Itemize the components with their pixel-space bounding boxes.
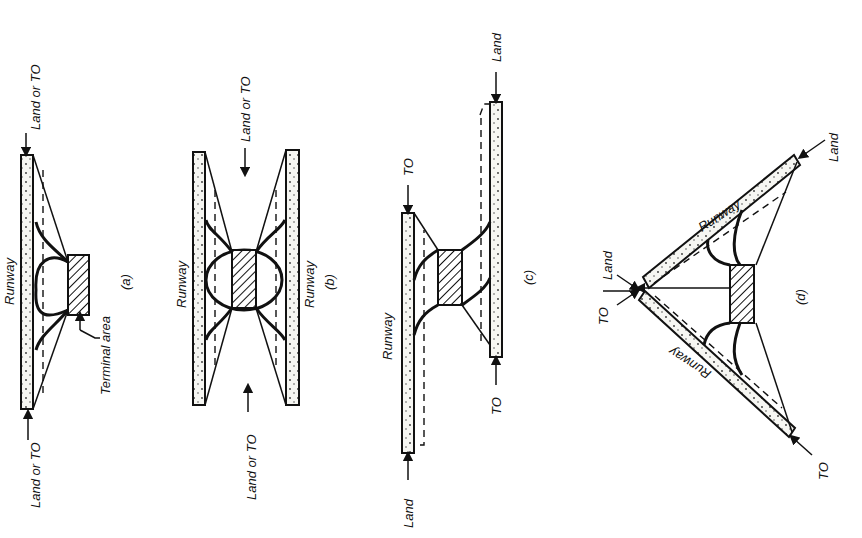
end-label-right-top: Land: [489, 32, 504, 62]
end-label-left-top: TO: [401, 158, 416, 176]
arrow-icon: [793, 438, 812, 455]
taxi-connector: [414, 250, 438, 280]
panel-c: TO Land Land TO Runway (c): [380, 32, 536, 528]
end-label-upper: Land: [826, 132, 841, 162]
airport-runway-configurations-figure: Land or TO Land or TO Runway Terminal ar…: [0, 0, 862, 538]
caption-d: (d): [793, 289, 808, 305]
taxiway-line: [256, 308, 286, 405]
taxi-loop: [734, 323, 742, 375]
panel-d: Land Land TO TO Runway Runway (d): [596, 132, 841, 480]
terminal-area-d: [730, 265, 754, 323]
terminal-area-b: [232, 250, 256, 308]
end-label-right-bottom: TO: [489, 397, 504, 415]
taxiway-line: [33, 310, 68, 409]
end-label-apex-to: TO: [596, 307, 611, 325]
taxi-loop: [708, 240, 730, 265]
terminal-area-a: [68, 255, 89, 315]
taxi-connector: [462, 222, 490, 250]
runway-c-left: [402, 213, 414, 453]
arrow-icon: [617, 292, 636, 305]
runway-label: Runway: [2, 257, 17, 305]
runway-label: Runway: [380, 312, 395, 360]
panel-b: Land or TO Land or TO Runway Runway (b): [174, 76, 337, 500]
end-label-apex-land: Land: [600, 250, 615, 280]
caption-c: (c): [521, 270, 536, 285]
taxiway-line: [462, 305, 490, 345]
terminal-label: Terminal area: [98, 316, 113, 395]
arrow-icon: [802, 140, 825, 156]
end-label-lower: TO: [816, 462, 831, 480]
runway-d-lower: [639, 291, 795, 437]
taxiway-line: [414, 213, 438, 250]
caption-b: (b): [322, 274, 337, 290]
terminal-leader: [80, 330, 100, 338]
end-label-top: Land or TO: [28, 64, 43, 130]
taxi-connector: [462, 278, 490, 305]
taxi-loop: [36, 222, 68, 262]
end-label-bottom: Land or TO: [28, 442, 43, 508]
parallel-taxiway: [480, 104, 490, 115]
taxi-loop: [704, 323, 730, 345]
runway-label: Runway: [302, 260, 317, 308]
caption-a: (a): [118, 274, 133, 290]
end-label-bottom: Land or TO: [244, 434, 259, 500]
end-label-left-bottom: Land: [401, 498, 416, 528]
end-label-top: Land or TO: [238, 76, 253, 142]
taxi-loop: [36, 258, 68, 315]
taxi-connector: [414, 305, 438, 335]
arrow-icon: [617, 275, 636, 288]
terminal-area-c: [438, 250, 462, 305]
runway-c-right: [490, 102, 502, 357]
runway-b-left: [193, 152, 205, 405]
panel-a: Land or TO Land or TO Runway Terminal ar…: [2, 64, 133, 508]
runway-b-right: [286, 150, 299, 405]
runway-label: Runway: [174, 260, 189, 308]
runway-a: [21, 155, 33, 409]
